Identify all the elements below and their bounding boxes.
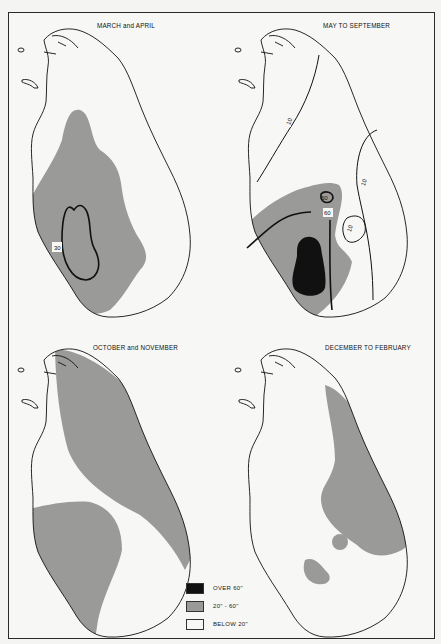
zone-20-60-southwest xyxy=(22,502,122,640)
panel-october-november xyxy=(18,349,195,640)
panel-december-february xyxy=(235,349,411,637)
isohyet-label: 60 xyxy=(321,195,328,201)
isohyet-label: 10 xyxy=(346,224,354,233)
isohyet-label: 30 xyxy=(54,245,61,251)
legend-swatch-gray xyxy=(186,601,204,612)
panel-title-october-november: OCTOBER and NOVEMBER xyxy=(93,344,178,351)
zone-20-60-east xyxy=(321,385,411,555)
legend-swatch-white xyxy=(186,619,204,630)
panel-march-april: 30 xyxy=(18,29,190,317)
zone-20-60 xyxy=(25,110,146,314)
isohyet-label: 10 xyxy=(360,178,368,187)
legend-item-below-20: BELOW 20" xyxy=(186,616,248,632)
rainfall-maps: 30 10 10 10 60 60 xyxy=(0,0,441,644)
isohyet-label: 60 xyxy=(324,210,331,216)
panel-title-may-september: MAY TO SEPTEMBER xyxy=(323,22,390,29)
zone-20-60 xyxy=(242,183,352,316)
zone-20-60-patch xyxy=(304,559,330,584)
panel-title-december-february: DECEMBER TO FEBRUARY xyxy=(325,344,411,351)
legend-label: OVER 60" xyxy=(213,585,243,591)
legend-item-over-60: OVER 60" xyxy=(186,580,248,596)
panel-title-march-april: MARCH and APRIL xyxy=(97,22,155,29)
legend: OVER 60" 20" - 60" BELOW 20" xyxy=(186,580,248,634)
legend-label: 20" - 60" xyxy=(213,603,239,609)
panel-may-september: 10 10 10 60 60 xyxy=(235,29,407,317)
legend-swatch-black xyxy=(186,583,204,594)
legend-label: BELOW 20" xyxy=(213,621,248,627)
legend-item-20-60: 20" - 60" xyxy=(186,598,248,614)
zone-20-60-patch xyxy=(332,534,348,550)
